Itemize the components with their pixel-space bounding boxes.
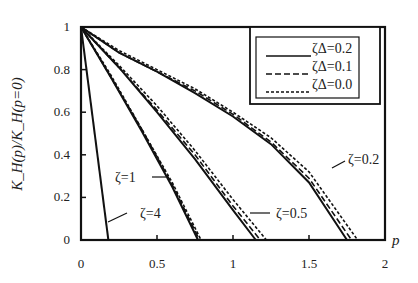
curve-label: ζ=0.5 [276, 206, 307, 221]
x-tick-label: 1 [230, 256, 237, 271]
leader-line [108, 213, 127, 222]
curve-label: ζ=1 [115, 170, 136, 185]
legend-label: ζΔ=0.2 [312, 41, 352, 56]
chart: 00.511.5200.20.40.60.81 ζΔ=0.2ζΔ=0.1ζΔ=0… [0, 0, 418, 283]
x-tick-label: 2 [382, 256, 389, 271]
y-tick-label: 0.2 [54, 189, 70, 204]
legend-label: ζΔ=0.0 [312, 77, 352, 92]
y-tick-label: 0.6 [54, 104, 71, 119]
x-tick-label: 0 [78, 256, 85, 271]
y-tick-label: 0.4 [54, 147, 71, 162]
y-axis-label: K_H(p)/K_H(p=0) [9, 77, 26, 191]
x-tick-label: 1.5 [301, 256, 317, 271]
leader-line [332, 161, 345, 168]
legend-label: ζΔ=0.1 [312, 59, 352, 74]
curve [81, 27, 260, 240]
curve-label: ζ=0.2 [348, 152, 379, 167]
x-tick-label: 0.5 [149, 256, 165, 271]
y-tick-label: 0 [64, 232, 71, 247]
y-tick-label: 0.8 [54, 62, 70, 77]
x-axis-label: p [391, 232, 400, 248]
curve [81, 27, 256, 240]
curve [81, 27, 108, 240]
legend: ζΔ=0.2ζΔ=0.1ζΔ=0.0 [250, 27, 380, 104]
y-tick-label: 1 [64, 19, 71, 34]
curve-label: ζ=4 [140, 206, 161, 221]
